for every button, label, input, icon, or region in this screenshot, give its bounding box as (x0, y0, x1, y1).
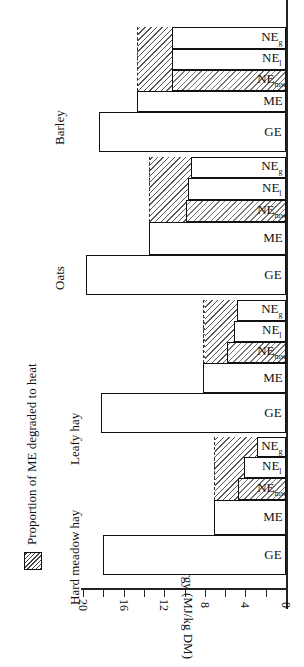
bar-label: GE (264, 547, 281, 563)
axis-tick (266, 590, 267, 597)
chart-figure: 048121620Energy (MJ/kg DM)GEMENEmwNElNEg… (0, 0, 304, 667)
bar-label: GE (264, 405, 281, 421)
bar-label: NEg (262, 159, 283, 177)
bar-neg: NEg (191, 157, 286, 178)
bar-label: NEg (262, 438, 283, 456)
axis-tick (144, 590, 145, 597)
bar-label: NEg (262, 302, 283, 320)
bar-label: NEmw (258, 480, 287, 498)
bar-me: ME (214, 500, 286, 535)
category-label: Oats (52, 266, 68, 290)
category-label: Hard meadow hay (67, 510, 83, 605)
bar-label: NEl (262, 51, 282, 69)
axis-baseline (286, 0, 288, 609)
legend-swatch (24, 552, 42, 570)
bar-label: ME (263, 370, 283, 386)
bar-label: ME (263, 231, 283, 247)
axis-tick-label: 16 (116, 593, 131, 617)
bar-neg: NEg (237, 300, 286, 321)
category-label: Leafy hay (67, 413, 83, 465)
bar-label: GE (264, 267, 281, 283)
bar-ge: GE (99, 112, 286, 152)
legend-label: Proportion of ME degraded to heat (24, 363, 40, 545)
bar-label: ME (263, 94, 283, 110)
axis-tick-label: 8 (197, 593, 212, 617)
bar-nel: NEl (244, 457, 286, 478)
bar-me: ME (203, 363, 286, 393)
bar-label: NEl (262, 323, 282, 341)
category-label: Barley (52, 110, 68, 145)
bar-nel: NEl (234, 321, 286, 342)
bar-nemw: NEmw (227, 342, 286, 363)
bar-me: ME (137, 91, 286, 112)
bar-neg: NEg (172, 27, 286, 49)
bar-ge: GE (103, 535, 286, 575)
bar-nemw: NEmw (186, 200, 286, 222)
bar-label: ME (263, 510, 283, 526)
bar-ge: GE (101, 393, 286, 433)
axis-tick-label: 4 (237, 593, 252, 617)
bar-label: NEmw (258, 202, 287, 220)
bar-label: NEl (262, 180, 282, 198)
bar-label: GE (264, 124, 281, 140)
bar-neg: NEg (257, 437, 286, 457)
axis-tick (103, 590, 104, 597)
bar-label: NEg (262, 29, 283, 47)
bar-label: NEmw (258, 344, 287, 362)
bar-label: NEl (262, 459, 282, 477)
axis-tick-label: 12 (156, 593, 171, 617)
bar-nemw: NEmw (238, 478, 286, 500)
axis-tick-label: 0 (278, 593, 293, 617)
axis-tick (225, 590, 226, 597)
bar-nemw: NEmw (172, 70, 286, 91)
bar-label: NEmw (258, 72, 287, 90)
bar-ge: GE (86, 255, 286, 295)
bar-nel: NEl (172, 49, 286, 70)
bar-me: ME (149, 222, 286, 255)
bar-nel: NEl (188, 178, 286, 200)
